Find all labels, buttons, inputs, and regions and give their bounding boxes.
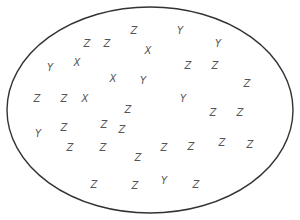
letter-z: Z — [161, 143, 168, 153]
letter-z: Z — [91, 180, 98, 190]
letter-z: Z — [104, 39, 111, 49]
letter-y: Y — [161, 176, 167, 186]
letter-z: Z — [219, 138, 226, 148]
letter-z: Z — [131, 26, 138, 36]
letter-z: Z — [101, 120, 108, 130]
letter-y: Y — [177, 26, 183, 36]
letter-z: Z — [61, 94, 68, 104]
letter-z: Z — [61, 123, 68, 133]
letter-y: Y — [35, 129, 41, 139]
letter-x: X — [110, 74, 117, 84]
letter-z: Z — [132, 181, 139, 191]
letter-z: Z — [237, 108, 244, 118]
letter-x: X — [145, 46, 152, 56]
letter-z: Z — [84, 39, 91, 49]
letter-y: Y — [140, 76, 146, 86]
letter-y: Y — [180, 94, 186, 104]
letter-z: Z — [247, 140, 254, 150]
letter-z: Z — [119, 125, 126, 135]
letter-z: Z — [125, 105, 132, 115]
set-diagram: ZYZZXYYXZZXYZZZXYZZZYZZZZZZZZZZZZYZ — [0, 0, 300, 220]
ellipse-boundary — [0, 0, 300, 220]
letter-z: Z — [193, 180, 200, 190]
letter-z: Z — [244, 79, 251, 89]
letter-z: Z — [188, 142, 195, 152]
letter-z: Z — [67, 143, 74, 153]
letter-z: Z — [212, 61, 219, 71]
letter-z: Z — [185, 61, 192, 71]
letter-z: Z — [34, 94, 41, 104]
letter-x: X — [74, 58, 81, 68]
letter-y: Y — [215, 39, 221, 49]
letter-z: Z — [210, 108, 217, 118]
letter-x: X — [82, 94, 89, 104]
letter-z: Z — [100, 143, 107, 153]
letter-y: Y — [47, 63, 53, 73]
letter-z: Z — [135, 153, 142, 163]
